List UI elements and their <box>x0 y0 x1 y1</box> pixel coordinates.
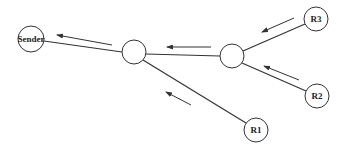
arrow-r2-to-b <box>264 66 299 80</box>
sender-label: Sender <box>18 34 45 44</box>
edge-a-sender <box>44 41 122 52</box>
r3-label: R3 <box>311 14 322 24</box>
edge-b-a <box>146 54 220 56</box>
edge-r3-b <box>243 24 305 51</box>
node-router-a <box>122 40 146 64</box>
r1-label: R1 <box>251 125 262 135</box>
arrow-r3-to-b <box>262 18 294 32</box>
arrows <box>57 18 299 105</box>
node-sender: Sender <box>18 26 45 52</box>
node-r1: R1 <box>244 118 268 142</box>
node-r2: R2 <box>305 84 329 108</box>
edge-r1-a <box>143 60 246 123</box>
edge-r2-b <box>242 63 306 91</box>
node-router-b <box>220 44 244 68</box>
diagram-canvas: Sender R3 R2 R1 <box>0 0 349 152</box>
multicast-tree-diagram: Sender R3 R2 R1 <box>0 0 349 152</box>
r2-label: R2 <box>312 91 323 101</box>
node-r3: R3 <box>304 7 328 31</box>
edges <box>44 24 306 123</box>
arrow-r1-to-a <box>166 92 191 105</box>
